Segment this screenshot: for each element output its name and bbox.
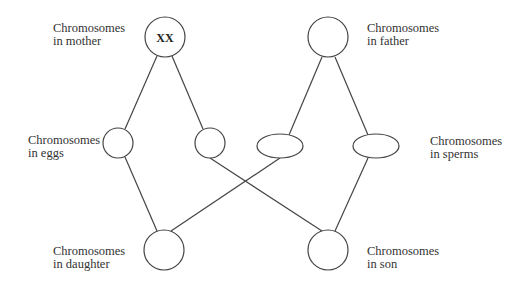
son-node [308, 230, 348, 270]
sperm-node-1 [257, 134, 303, 158]
egg-node-1 [103, 128, 133, 158]
label-eggs: Chromosomes in eggs [28, 134, 100, 160]
label-daughter: Chromosomes in daughter [53, 245, 125, 271]
label-son: Chromosomes in son [367, 245, 439, 271]
label-father: Chromosomes in father [367, 22, 439, 48]
mother-node-text: XX [156, 31, 174, 45]
label-sperms: Chromosomes in sperms [430, 135, 502, 161]
edge-egg2-son [210, 158, 322, 231]
edge-father-sperm1 [289, 57, 322, 135]
sperm-node-2 [353, 134, 399, 158]
edge-father-sperm2 [335, 57, 368, 135]
edge-mother-egg1 [125, 56, 157, 129]
father-node [308, 17, 348, 57]
egg-node-2 [195, 128, 225, 158]
label-mother: Chromosomes in mother [53, 22, 125, 48]
chromosome-inheritance-diagram: XX Chromosomes in mother Chromosomes in … [0, 0, 518, 289]
daughter-node [144, 230, 184, 270]
edge-sperm1-daughter [171, 158, 280, 231]
edge-mother-egg2 [172, 56, 203, 129]
edge-egg1-daughter [125, 157, 157, 231]
edge-sperm2-son [335, 158, 368, 231]
